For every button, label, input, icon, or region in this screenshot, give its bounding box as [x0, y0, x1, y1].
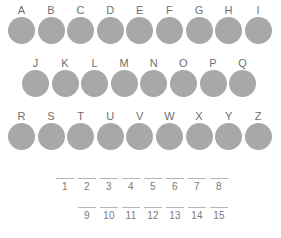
blank-line-14[interactable]	[188, 207, 206, 208]
circle-m[interactable]	[111, 70, 138, 97]
letter-cell-h[interactable]: H	[215, 4, 242, 44]
letter-cell-p[interactable]: P	[200, 57, 227, 97]
circle-h[interactable]	[215, 17, 242, 44]
letter-cell-g[interactable]: G	[186, 4, 213, 44]
blank-number-8: 8	[216, 181, 222, 193]
letter-cell-j[interactable]: J	[22, 57, 49, 97]
letter-cell-u[interactable]: U	[97, 110, 124, 150]
blank-line-13[interactable]	[166, 207, 184, 208]
letter-cell-y[interactable]: Y	[215, 110, 242, 150]
letter-label-b: B	[47, 4, 55, 16]
circle-d[interactable]	[97, 17, 124, 44]
blank-cell-4[interactable]: 4	[120, 178, 142, 193]
letter-cell-t[interactable]: T	[67, 110, 94, 150]
letter-cell-i[interactable]: I	[245, 4, 272, 44]
circle-t[interactable]	[67, 123, 94, 150]
circle-q[interactable]	[229, 70, 256, 97]
letter-cell-n[interactable]: N	[140, 57, 167, 97]
circle-e[interactable]	[126, 17, 153, 44]
circle-y[interactable]	[215, 123, 242, 150]
letter-cell-f[interactable]: F	[156, 4, 183, 44]
blank-line-9[interactable]	[78, 207, 96, 208]
letter-cell-a[interactable]: A	[8, 4, 35, 44]
letter-cell-s[interactable]: S	[38, 110, 65, 150]
letter-label-j: J	[33, 57, 39, 69]
blank-number-6: 6	[172, 181, 178, 193]
circle-o[interactable]	[170, 70, 197, 97]
blank-cell-11[interactable]: 11	[120, 207, 142, 222]
circle-p[interactable]	[200, 70, 227, 97]
circle-r[interactable]	[8, 123, 35, 150]
circle-k[interactable]	[52, 70, 79, 97]
blank-cell-15[interactable]: 15	[208, 207, 230, 222]
circle-n[interactable]	[140, 70, 167, 97]
circle-i[interactable]	[245, 17, 272, 44]
letter-label-p: P	[209, 57, 217, 69]
letter-label-m: M	[120, 57, 129, 69]
blank-line-4[interactable]	[122, 178, 140, 179]
circle-c[interactable]	[67, 17, 94, 44]
blank-line-11[interactable]	[122, 207, 140, 208]
letter-cell-d[interactable]: D	[97, 4, 124, 44]
letter-cell-x[interactable]: X	[186, 110, 213, 150]
blank-line-1[interactable]	[56, 178, 74, 179]
blank-cell-6[interactable]: 6	[164, 178, 186, 193]
circle-b[interactable]	[38, 17, 65, 44]
letter-row-j-q: JKLMNOPQ	[22, 57, 259, 97]
blank-line-10[interactable]	[100, 207, 118, 208]
letter-label-t: T	[77, 110, 84, 122]
blank-number-7: 7	[194, 181, 200, 193]
letter-label-h: H	[225, 4, 233, 16]
blank-cell-7[interactable]: 7	[186, 178, 208, 193]
letter-label-u: U	[106, 110, 114, 122]
blank-line-15[interactable]	[210, 207, 228, 208]
letter-cell-o[interactable]: O	[170, 57, 197, 97]
blank-line-7[interactable]	[188, 178, 206, 179]
circle-j[interactable]	[22, 70, 49, 97]
blank-line-6[interactable]	[166, 178, 184, 179]
blank-cell-10[interactable]: 10	[98, 207, 120, 222]
letter-label-d: D	[106, 4, 114, 16]
letter-label-v: V	[136, 110, 144, 122]
circle-w[interactable]	[156, 123, 183, 150]
letter-label-q: Q	[238, 57, 247, 69]
blank-line-12[interactable]	[144, 207, 162, 208]
blank-cell-12[interactable]: 12	[142, 207, 164, 222]
blank-line-3[interactable]	[100, 178, 118, 179]
blank-cell-9[interactable]: 9	[76, 207, 98, 222]
circle-v[interactable]	[126, 123, 153, 150]
letter-cell-b[interactable]: B	[38, 4, 65, 44]
blank-line-8[interactable]	[210, 178, 228, 179]
blank-cell-1[interactable]: 1	[54, 178, 76, 193]
letter-cell-c[interactable]: C	[67, 4, 94, 44]
blank-number-1: 1	[62, 181, 68, 193]
letter-cell-e[interactable]: E	[126, 4, 153, 44]
blank-cell-14[interactable]: 14	[186, 207, 208, 222]
letter-cell-k[interactable]: K	[52, 57, 79, 97]
circle-x[interactable]	[186, 123, 213, 150]
blank-cell-3[interactable]: 3	[98, 178, 120, 193]
circle-a[interactable]	[8, 17, 35, 44]
blank-cell-8[interactable]: 8	[208, 178, 230, 193]
blank-line-5[interactable]	[144, 178, 162, 179]
circle-u[interactable]	[97, 123, 124, 150]
letter-cell-z[interactable]: Z	[245, 110, 272, 150]
letter-cell-v[interactable]: V	[126, 110, 153, 150]
blank-cell-5[interactable]: 5	[142, 178, 164, 193]
circle-z[interactable]	[245, 123, 272, 150]
circle-g[interactable]	[186, 17, 213, 44]
blank-number-12: 12	[147, 210, 159, 222]
letter-cell-l[interactable]: L	[81, 57, 108, 97]
letter-label-c: C	[77, 4, 85, 16]
blank-line-2[interactable]	[78, 178, 96, 179]
letter-cell-w[interactable]: W	[156, 110, 183, 150]
circle-l[interactable]	[81, 70, 108, 97]
letter-cell-m[interactable]: M	[111, 57, 138, 97]
letter-cell-r[interactable]: R	[8, 110, 35, 150]
blank-number-5: 5	[150, 181, 156, 193]
circle-f[interactable]	[156, 17, 183, 44]
blank-cell-13[interactable]: 13	[164, 207, 186, 222]
blank-cell-2[interactable]: 2	[76, 178, 98, 193]
letter-cell-q[interactable]: Q	[229, 57, 256, 97]
circle-s[interactable]	[38, 123, 65, 150]
